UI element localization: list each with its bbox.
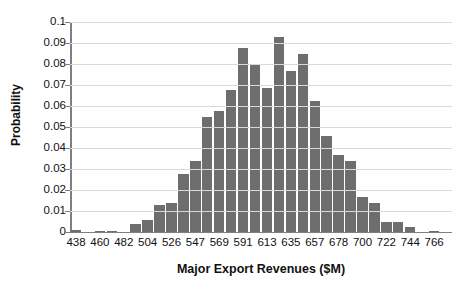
y-axis-tick-mark [65,127,70,128]
y-axis-tick-labels: 00.010.020.030.040.050.060.070.080.090.1 [22,22,66,232]
bar [381,222,391,232]
x-axis-tick-label: 547 [186,235,205,249]
bar [345,161,355,232]
y-axis-tick-mark [65,43,70,44]
bar [202,117,212,232]
bar [178,174,188,232]
grid-line [70,148,452,149]
x-axis-tick-label: 700 [353,235,372,249]
y-axis-tick-label: 0.04 [22,142,66,154]
y-axis-tick-label: 0 [22,226,66,238]
x-axis-tick-label: 504 [138,235,157,249]
y-axis-tick-mark [65,64,70,65]
x-axis-tick-label: 438 [66,235,85,249]
bar [214,111,224,232]
x-axis-tick-label: 657 [305,235,324,249]
grid-line [70,43,452,44]
bar [238,48,248,232]
grid-line [70,127,452,128]
grid-line [70,190,452,191]
x-axis-tick-label: 635 [281,235,300,249]
bar [321,136,331,232]
y-axis-tick-label: 0.08 [22,58,66,70]
y-axis-tick-mark [65,85,70,86]
x-axis-tick-label: 460 [90,235,109,249]
y-axis-tick-mark [65,232,70,233]
y-axis-tick-mark [65,106,70,107]
x-axis-tick-label: 766 [425,235,444,249]
bar [274,37,284,232]
x-axis-tick-label: 613 [257,235,276,249]
bar [286,71,296,232]
grid-line [70,232,452,233]
y-axis-tick-label: 0.09 [22,37,66,49]
bar [298,54,308,232]
bar [357,197,367,232]
x-axis-tick-label: 569 [210,235,229,249]
y-axis-tick-label: 0.05 [22,121,66,133]
y-axis-tick-label: 0.07 [22,79,66,91]
x-axis-tick-label: 722 [377,235,396,249]
y-axis-title: Probability [9,55,23,175]
grid-line [70,85,452,86]
bar [333,155,343,232]
x-axis-title: Major Export Revenues ($M) [70,262,452,276]
bar [369,203,379,232]
y-axis-tick-label: 0.02 [22,184,66,196]
bar [166,203,176,232]
bar [154,205,164,232]
x-axis-tick-label: 526 [162,235,181,249]
y-axis-tick-mark [65,211,70,212]
y-axis-tick-mark [65,169,70,170]
grid-line [70,64,452,65]
x-axis-tick-label: 744 [401,235,420,249]
x-axis-tick-label: 678 [329,235,348,249]
bar [310,101,320,232]
probability-histogram-chart: Probability 00.010.020.030.040.050.060.0… [0,0,460,296]
y-axis-tick-label: 0.03 [22,163,66,175]
y-axis-tick-mark [65,190,70,191]
x-axis-tick-labels: 4384604825045265475695916136356576787007… [70,235,452,251]
bar [393,222,403,232]
grid-line [70,211,452,212]
x-axis-tick-label: 482 [114,235,133,249]
grid-line [70,106,452,107]
bar [190,161,200,232]
y-axis-tick-label: 0.01 [22,205,66,217]
grid-line [70,22,452,23]
bar [130,224,140,232]
plot-area [70,22,452,232]
x-axis-tick-label: 591 [234,235,253,249]
y-axis-tick-label: 0.06 [22,100,66,112]
y-axis-tick-mark [65,22,70,23]
bar [142,220,152,232]
y-axis-tick-label: 0.1 [22,16,66,28]
grid-line [70,169,452,170]
y-axis-tick-mark [65,148,70,149]
